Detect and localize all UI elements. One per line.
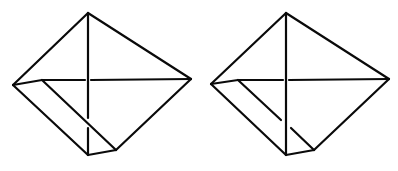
edge-bottom-bottomright bbox=[286, 150, 314, 155]
edge-top-right bbox=[286, 13, 389, 79]
diagonal-fold bbox=[42, 80, 116, 150]
diagram-canvas bbox=[0, 0, 398, 171]
horizontal-segment-b bbox=[289, 79, 389, 80]
edge-top-left bbox=[211, 13, 286, 84]
edge-left-bottom bbox=[13, 85, 88, 155]
edge-right-bottomright bbox=[314, 79, 389, 150]
figure-right bbox=[211, 13, 389, 155]
figure-left bbox=[13, 13, 191, 155]
edge-top-left bbox=[13, 13, 88, 85]
diagonal-segment-a bbox=[238, 80, 281, 120]
diagonal-segment-b bbox=[291, 128, 314, 150]
horizontal-segment-b bbox=[91, 79, 191, 80]
edge-top-right bbox=[88, 13, 191, 79]
edge-left-bottom bbox=[211, 84, 286, 155]
edge-bottom-bottomright bbox=[88, 150, 116, 155]
edge-right-bottomright bbox=[116, 79, 191, 150]
